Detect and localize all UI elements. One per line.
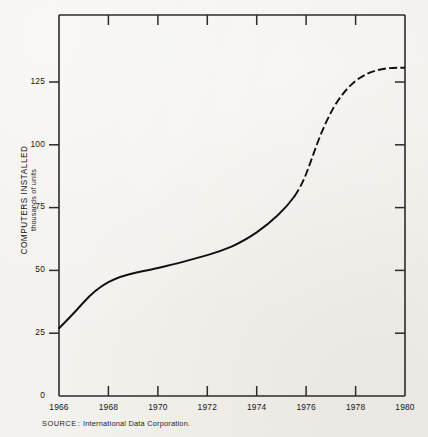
x-tick-label-1970: 1970 <box>139 402 177 412</box>
y-tick-label-100: 100 <box>14 139 45 149</box>
chart-figure: COMPUTERS INSTALLED thousands of units 0… <box>0 0 428 437</box>
y-tick-label-0: 0 <box>18 390 45 400</box>
source-label: SOURCE <box>42 419 77 428</box>
y-axis-ticks-left <box>49 82 59 333</box>
y-tick-label-25: 25 <box>18 327 45 337</box>
plot-frame <box>59 15 405 396</box>
y-tick-label-125: 125 <box>14 76 45 86</box>
x-tick-label-1966: 1966 <box>40 402 78 412</box>
series-curve-actual <box>59 196 295 328</box>
x-tick-label-1978: 1978 <box>337 402 375 412</box>
y-axis-title-main: COMPUTERS INSTALLED <box>20 145 29 254</box>
y-tick-label-50: 50 <box>18 264 45 274</box>
x-axis-ticks-bottom <box>108 386 355 396</box>
x-axis-ticks-top <box>108 15 355 25</box>
y-axis-ticks-right <box>395 82 405 333</box>
x-tick-label-1976: 1976 <box>287 402 325 412</box>
y-axis-title-sub: thousands of units <box>30 169 38 231</box>
line-chart-plot <box>0 0 428 437</box>
source-note: SOURCE:International Data Corporation. <box>42 419 190 428</box>
series-line-actual <box>59 266 158 329</box>
y-tick-label-75: 75 <box>18 201 45 211</box>
x-tick-label-1974: 1974 <box>238 402 276 412</box>
x-tick-label-1972: 1972 <box>188 402 226 412</box>
x-tick-label-1968: 1968 <box>89 402 127 412</box>
series-curve-projected <box>295 68 406 196</box>
x-tick-label-1980: 1980 <box>386 402 424 412</box>
source-value: International Data Corporation. <box>83 419 190 428</box>
